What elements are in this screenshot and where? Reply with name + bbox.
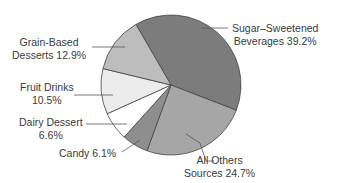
label-line: Sources 24.7% xyxy=(184,167,255,180)
label-line: All Others xyxy=(184,154,255,167)
label-line: Fruit Drinks xyxy=(20,81,74,94)
label-line: 6.6% xyxy=(19,129,83,142)
label-line: Beverages 39.2% xyxy=(232,35,318,48)
label-sugar-sweetened-beverages: Sugar–Sweetened Beverages 39.2% xyxy=(232,22,318,48)
label-line: 10.5% xyxy=(20,94,74,107)
label-line: Candy 6.1% xyxy=(59,147,116,160)
label-all-others-sources: All Others Sources 24.7% xyxy=(184,154,255,180)
label-line: Dairy Dessert xyxy=(19,116,83,129)
label-grain-based-desserts: Grain-Based Desserts 12.9% xyxy=(12,36,86,62)
label-line: Grain-Based xyxy=(12,36,86,49)
label-candy: Candy 6.1% xyxy=(59,147,116,160)
label-line: Sugar–Sweetened xyxy=(232,22,318,35)
label-fruit-drinks: Fruit Drinks 10.5% xyxy=(20,81,74,107)
label-line: Desserts 12.9% xyxy=(12,49,86,62)
label-dairy-dessert: Dairy Dessert 6.6% xyxy=(19,116,83,142)
